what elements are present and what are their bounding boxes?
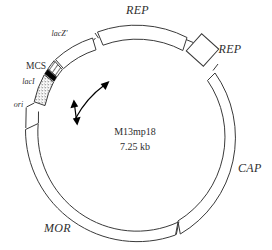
feature-rep-right xyxy=(186,34,218,71)
label-rep-top: REP xyxy=(125,3,149,17)
label-ori: ori xyxy=(14,100,23,109)
label-mcs: MCS xyxy=(26,61,46,71)
label-lacz: lacZ' xyxy=(52,29,68,38)
vector-name: M13mp18 xyxy=(114,126,156,137)
feature-lacz xyxy=(56,38,97,69)
feature-rep-top xyxy=(95,25,193,50)
label-cap: CAP xyxy=(238,161,262,175)
label-laci: lacI xyxy=(22,77,35,86)
plasmid-map-figure: REP REP CAP MOR lacZ' MCS lacI ori M13mp… xyxy=(0,0,272,250)
label-rep-right: REP xyxy=(218,42,242,56)
transcription-direction-arrow xyxy=(76,81,110,119)
vector-size: 7.25 kb xyxy=(120,141,150,152)
plasmid-diagram: REP REP CAP MOR lacZ' MCS lacI ori M13mp… xyxy=(0,0,272,250)
label-mor: MOR xyxy=(43,221,71,235)
feature-cap xyxy=(178,73,236,234)
